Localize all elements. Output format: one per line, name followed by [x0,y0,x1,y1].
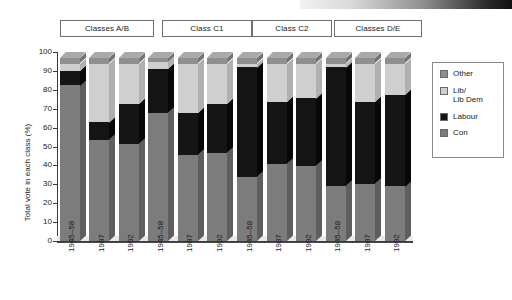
bar-3-segment-other [119,58,139,63]
bar-10[interactable] [326,52,346,241]
bar-8-segment-con-side [287,159,293,241]
bar-12-segment-lib-side [405,58,411,95]
legend-label-con: Con [453,128,468,138]
group-header-classes-de: Classes D/E [334,20,422,37]
y-tick-label-20: 20 [30,198,52,207]
bar-9-segment-con [296,166,316,241]
bar-8-segment-lib [267,64,287,102]
y-tick-label-30: 30 [30,179,52,188]
x-tick-label-3: 1992 [126,234,135,252]
bar-5-segment-con-side [198,150,204,241]
bar-4[interactable] [148,52,168,241]
bar-9-segment-lib-side [316,58,322,98]
legend-item-con[interactable]: Con [440,128,503,138]
bar-5-segment-labour-side [198,108,204,155]
y-tick-label-60: 60 [30,123,52,132]
bar-11[interactable] [355,52,375,241]
bar-6-segment-con-side [227,148,233,241]
y-tick-label-100: 100 [30,47,52,56]
bar-9[interactable] [296,52,316,241]
bar-7-segment-lib [237,64,257,68]
bar-12-segment-labour-side [405,89,411,186]
bar-12-segment-lib [385,64,405,95]
bar-5[interactable] [178,52,198,241]
group-header-classes-ab: Classes A/B [60,20,154,37]
bar-7[interactable] [237,52,257,241]
bar-2-segment-con-side [109,135,115,241]
legend-item-labour[interactable]: Labour [440,112,503,122]
bar-8-segment-other [267,58,287,63]
bar-3[interactable] [119,52,139,241]
bar-6-segment-labour-side [227,98,233,153]
bar-1[interactable] [60,52,80,241]
bar-4-segment-other [148,58,168,62]
bar-8-segment-labour [267,102,287,164]
bar-1-segment-lib [60,64,80,71]
bar-2[interactable] [89,52,109,241]
bar-11-segment-lib-side [375,58,381,102]
y-axis-tick-labels: 1009080706050403020100 [26,0,52,300]
legend-swatch-labour-icon [440,113,448,121]
bar-7-segment-con-side [257,172,263,241]
bar-8-segment-con [267,164,287,241]
bar-5-segment-labour [178,113,198,155]
legend-label-lib-line2: Lib Dem [453,95,483,105]
bar-4-segment-labour [148,69,168,113]
bar-3-segment-lib-side [139,58,145,104]
group-header-class-c2: Class C2 [252,20,332,37]
bar-6[interactable] [207,52,227,241]
legend-label-other: Other [453,69,473,79]
y-tick-label-90: 90 [30,66,52,75]
bar-1-segment-other [60,58,80,63]
x-tick-label-9: 1992 [304,234,313,252]
bar-2-segment-con [89,140,109,241]
bar-9-segment-other [296,58,316,63]
y-tick-label-80: 80 [30,85,52,94]
x-tick-label-6: 1992 [215,234,224,252]
bar-9-segment-labour [296,98,316,166]
y-tick-label-10: 10 [30,217,52,226]
bar-10-segment-lib [326,64,346,68]
bar-10-segment-labour-side [346,62,352,186]
bar-6-segment-lib-side [227,58,233,104]
bar-7-segment-labour-side [257,62,263,177]
bar-6-segment-other [207,58,227,63]
x-tick-label-5: 1987 [185,234,194,252]
y-tick-label-70: 70 [30,104,52,113]
bar-9-segment-con-side [316,161,322,241]
y-tick-label-0: 0 [30,236,52,245]
bar-2-segment-lib-side [109,58,115,122]
legend-label-lib-line1: Lib/ [453,86,466,95]
bar-8-segment-lib-side [287,58,293,102]
bar-8[interactable] [267,52,287,241]
bar-3-segment-lib [119,64,139,104]
legend-swatch-con-icon [440,129,448,137]
bar-11-segment-labour [355,102,375,184]
bar-12[interactable] [385,52,405,241]
legend-label-labour: Labour [453,112,478,122]
y-tick-label-40: 40 [30,160,52,169]
bar-3-segment-labour-side [139,98,145,144]
bar-1-segment-labour [60,71,80,86]
bar-12-segment-other [385,58,405,63]
x-tick-label-1: 1945–58 [67,221,76,252]
bar-12-segment-labour [385,95,405,187]
bar-3-segment-con-side [139,139,145,241]
bar-2-segment-labour [89,122,109,140]
bar-7-segment-labour [237,67,257,177]
bar-6-segment-con [207,153,227,241]
legend-item-other[interactable]: Other [440,69,503,79]
bar-4-segment-lib [148,62,168,69]
x-tick-label-12: 1992 [392,234,401,252]
bar-3-segment-labour [119,104,139,144]
bar-1-segment-con-side [80,80,86,241]
legend-swatch-other-icon [440,70,448,78]
legend-swatch-lib-icon [440,87,448,95]
bar-5-segment-other [178,58,198,63]
bar-2-segment-lib [89,64,109,123]
bar-10-segment-con-side [346,181,352,241]
bar-7-segment-other [237,58,257,63]
bar-11-segment-other [355,58,375,63]
bar-3-segment-con [119,144,139,241]
legend-item-lib[interactable]: Lib/ Lib Dem [440,86,503,105]
